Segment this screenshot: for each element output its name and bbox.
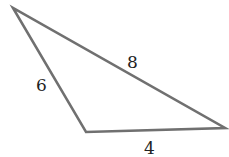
triangle bbox=[13, 8, 225, 132]
triangle-diagram: 8 6 4 bbox=[0, 0, 229, 157]
side-label-4: 4 bbox=[144, 138, 155, 157]
side-label-6: 6 bbox=[36, 75, 47, 95]
side-label-8: 8 bbox=[127, 52, 138, 72]
